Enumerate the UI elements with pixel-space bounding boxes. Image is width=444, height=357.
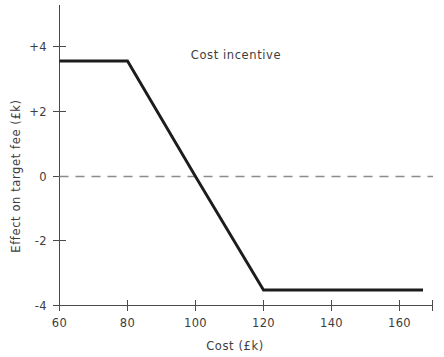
y-tick-label-minus4: -4: [35, 299, 47, 313]
y-tick-label-0: 0: [39, 170, 47, 184]
cost-incentive-annotation: Cost incentive: [191, 48, 281, 62]
x-tick-label-120: 120: [252, 316, 275, 330]
y-tick-label-4: +4: [29, 40, 47, 54]
y-tick-label-minus2: -2: [35, 234, 47, 248]
x-tick-label-60: 60: [52, 316, 67, 330]
y-axis-title: Effect on target fee (£k): [9, 99, 23, 252]
cost-incentive-series: [60, 61, 424, 290]
x-tick-label-140: 140: [320, 316, 343, 330]
chart-canvas: +4 +2 0 -2 -4 60 80 100 120 140 160 Cost…: [0, 0, 444, 357]
x-tick-label-160: 160: [388, 316, 411, 330]
x-tick-label-80: 80: [120, 316, 135, 330]
x-axis-title: Cost (£k): [206, 339, 264, 353]
cost-incentive-chart: +4 +2 0 -2 -4 60 80 100 120 140 160 Cost…: [0, 0, 444, 357]
y-tick-label-2: +2: [29, 105, 47, 119]
x-tick-label-100: 100: [184, 316, 207, 330]
